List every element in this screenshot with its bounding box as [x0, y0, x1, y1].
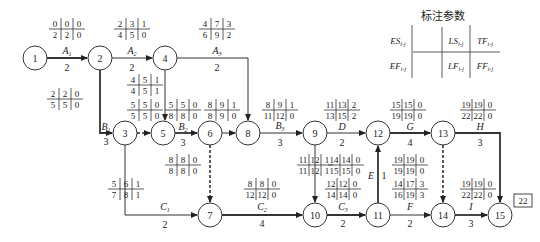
parameter-grids: 0002202314504736922205504514515505505508…: [47, 18, 496, 200]
node-11: 11: [366, 203, 390, 227]
svg-text:0: 0: [142, 30, 147, 40]
legend: 标注参数 ESi-j LSi-j TFi-j EFi-j LFi-j FFi-j: [389, 0, 500, 78]
svg-text:19: 19: [406, 166, 416, 176]
svg-text:8: 8: [181, 155, 186, 165]
svg-text:4: 4: [131, 75, 136, 85]
network-diagram: 标注参数 ESi-j LSi-j TFi-j EFi-j LFi-j FFi-j: [0, 0, 540, 242]
param-grid-b2: 550880: [165, 99, 201, 121]
svg-text:12: 12: [258, 190, 267, 200]
param-grid-h: 1919022220: [460, 99, 496, 121]
duration-b1: 3: [104, 136, 109, 147]
label-a3: A3: [211, 45, 221, 57]
duration-b2: 3: [181, 137, 186, 148]
param-grid-dummy-4-5: 451451: [127, 74, 163, 96]
svg-text:3: 3: [420, 190, 425, 200]
label-i: I: [468, 201, 473, 212]
svg-text:11: 11: [326, 100, 335, 110]
svg-text:0: 0: [290, 111, 295, 121]
nodes: 124356891213710111415: [23, 46, 512, 227]
project-duration-value: 22: [519, 196, 528, 206]
duration-c2: 4: [260, 218, 265, 229]
param-grid-b3: 89111120: [262, 99, 298, 121]
svg-text:0: 0: [418, 111, 423, 121]
svg-text:0: 0: [488, 100, 493, 110]
param-grid-d: 1113213152: [324, 99, 360, 121]
svg-text:0: 0: [272, 190, 277, 200]
svg-text:3: 3: [123, 128, 128, 139]
node-7: 7: [198, 203, 222, 227]
svg-text:13: 13: [326, 111, 336, 121]
svg-text:12: 12: [339, 179, 348, 189]
svg-text:12: 12: [276, 111, 285, 121]
svg-text:13: 13: [438, 128, 448, 139]
svg-text:4: 4: [163, 53, 168, 64]
svg-text:8: 8: [246, 128, 251, 139]
svg-text:15: 15: [338, 111, 348, 121]
svg-text:1: 1: [155, 75, 160, 85]
svg-text:EFi-j: EFi-j: [389, 61, 407, 72]
svg-text:11: 11: [299, 155, 308, 165]
svg-text:7: 7: [208, 210, 213, 221]
svg-text:0: 0: [353, 190, 358, 200]
svg-text:5: 5: [181, 100, 186, 110]
svg-text:1: 1: [136, 179, 141, 189]
svg-text:LSi-j: LSi-j: [448, 36, 464, 47]
svg-text:0: 0: [488, 190, 493, 200]
svg-text:19: 19: [474, 100, 484, 110]
node-14: 14: [431, 203, 455, 227]
legend-cell-ls: LSi-j: [448, 36, 464, 47]
duration-b3: 3: [278, 137, 283, 148]
svg-text:3: 3: [130, 19, 135, 29]
node-12: 12: [366, 121, 390, 145]
project-duration-box: 22: [514, 194, 532, 207]
svg-text:14: 14: [438, 210, 448, 221]
svg-text:1: 1: [155, 86, 160, 96]
svg-text:12: 12: [311, 155, 320, 165]
edge-a3: [177, 58, 248, 120]
svg-text:8: 8: [208, 111, 213, 121]
label-e: E: [367, 170, 374, 181]
svg-text:5: 5: [143, 86, 148, 96]
param-grid-a2: 231450: [114, 18, 150, 40]
svg-text:8: 8: [181, 111, 186, 121]
node-2: 2: [88, 46, 112, 70]
node-4: 4: [153, 46, 177, 70]
duration-e: 1: [382, 170, 387, 181]
svg-text:8: 8: [124, 190, 129, 200]
duration-h: 3: [478, 137, 483, 148]
svg-text:0: 0: [53, 19, 58, 29]
svg-text:19: 19: [406, 155, 416, 165]
svg-text:19: 19: [404, 111, 414, 121]
svg-text:22: 22: [474, 190, 483, 200]
node-10: 10: [303, 203, 327, 227]
svg-text:ESi-j: ESi-j: [389, 36, 406, 47]
svg-text:0: 0: [488, 111, 493, 121]
svg-text:14: 14: [394, 179, 404, 189]
param-grid-dummy-13-14: 1919019190: [392, 154, 428, 176]
label-c2: C2: [257, 201, 267, 213]
legend-cell-tf: TFi-j: [477, 36, 493, 47]
svg-text:15: 15: [404, 100, 414, 110]
svg-text:5: 5: [51, 100, 56, 110]
svg-text:12: 12: [311, 166, 320, 176]
param-grid-dummy-9-10: 1112111121: [297, 154, 333, 176]
svg-text:19: 19: [394, 155, 404, 165]
legend-cell-lf: LFi-j: [447, 61, 464, 72]
duration-c1: 2: [163, 219, 168, 230]
svg-text:14: 14: [342, 155, 352, 165]
svg-text:16: 16: [394, 190, 404, 200]
svg-text:19: 19: [394, 166, 404, 176]
svg-text:2: 2: [352, 100, 357, 110]
svg-text:10: 10: [310, 210, 320, 221]
svg-text:2: 2: [51, 89, 56, 99]
svg-text:2: 2: [53, 30, 58, 40]
svg-text:17: 17: [406, 179, 416, 189]
svg-text:0: 0: [418, 100, 423, 110]
svg-text:0: 0: [488, 179, 493, 189]
svg-text:19: 19: [474, 179, 484, 189]
svg-text:12: 12: [327, 179, 336, 189]
svg-text:0: 0: [155, 100, 160, 110]
param-grid-c1: 561781: [108, 178, 144, 200]
svg-text:FFi-j: FFi-j: [476, 61, 494, 72]
svg-text:0: 0: [75, 89, 80, 99]
